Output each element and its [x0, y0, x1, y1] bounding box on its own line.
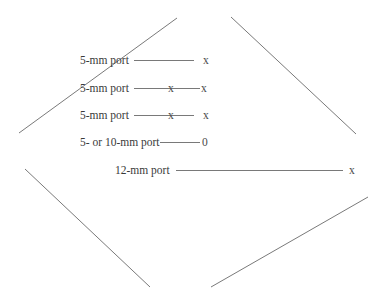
port-label: 5-mm port [80, 54, 130, 67]
port-label: 12-mm port [115, 164, 170, 177]
port-row: 5-mm portxx [80, 109, 209, 122]
port-label: 5- or 10-mm port [80, 136, 160, 149]
port-row: 5-mm portxx [80, 82, 207, 95]
port-row: 12-mm portx [115, 164, 355, 177]
outline-line-upper-right [231, 17, 356, 134]
port-site-x-marker: x [203, 109, 209, 121]
port-rows: 5-mm portx5-mm portxx5-mm portxx5- or 10… [80, 54, 355, 177]
outline-line-lower-left [25, 169, 150, 287]
port-row: 5- or 10-mm port0 [80, 136, 208, 149]
port-site-x-marker: x [201, 82, 207, 94]
port-site-x-marker: x [203, 54, 209, 66]
port-site-x-marker: x [168, 82, 174, 94]
port-row: 5-mm portx [80, 54, 209, 67]
port-site-circle-marker: 0 [202, 136, 208, 148]
outline-line-lower-right [211, 197, 368, 287]
port-site-x-marker: x [168, 109, 174, 121]
port-label: 5-mm port [80, 82, 130, 95]
abdominal-outline [19, 17, 368, 287]
port-diagram: 5-mm portx5-mm portxx5-mm portxx5- or 10… [0, 0, 381, 306]
port-label: 5-mm port [80, 109, 130, 122]
port-site-x-marker: x [349, 164, 355, 176]
